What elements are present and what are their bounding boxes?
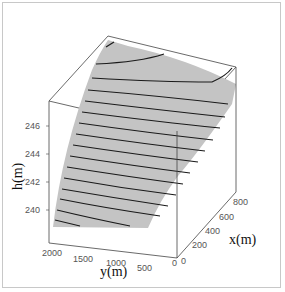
z-tick-244: 244 (25, 149, 40, 159)
x-axis-label: x(m) (229, 232, 257, 248)
x-tick-200: 200 (192, 240, 207, 250)
x-tick-800: 800 (233, 197, 248, 207)
y-tick-500: 500 (137, 263, 152, 273)
surface-plot: 246 244 242 240 2000 1500 1000 500 0 0 2… (0, 0, 285, 292)
z-tick-240: 240 (25, 205, 40, 215)
x-tick-600: 600 (219, 212, 234, 222)
z-tick-242: 242 (25, 177, 40, 187)
y-tick-1500: 1500 (73, 254, 93, 264)
x-tick-400: 400 (205, 226, 220, 236)
z-tick-246: 246 (25, 121, 40, 131)
z-axis-label: h(m) (10, 162, 26, 190)
x-tick-0: 0 (181, 256, 186, 266)
surface (53, 40, 236, 228)
z-axis (46, 126, 49, 210)
y-axis-label: y(m) (100, 264, 128, 280)
y-tick-0: 0 (172, 258, 177, 268)
y-tick-2000: 2000 (42, 248, 62, 258)
